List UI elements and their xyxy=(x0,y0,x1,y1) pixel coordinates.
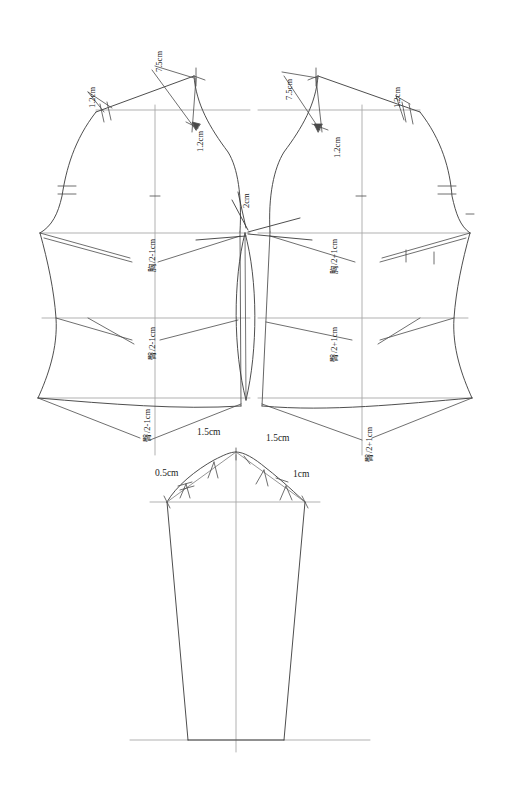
front-shoulder-notch-b xyxy=(409,104,413,124)
back-armhole-curve xyxy=(40,112,96,233)
front-chest-dart-lower xyxy=(380,238,466,262)
label-sleeve-cap-right-lower: 1cm xyxy=(293,470,309,480)
label-back-hem-formula: 臀/2-1cm xyxy=(143,409,152,442)
label-front-hem-formula: 臀/2+1cm xyxy=(365,427,374,462)
front-waist-dart-lower xyxy=(378,318,420,344)
front-neck-measure-leader xyxy=(282,72,318,78)
front-hem-dart-a xyxy=(372,398,472,438)
back-chest-dart-upper xyxy=(40,233,130,258)
sleeve-left-seam xyxy=(167,502,188,740)
back-darts xyxy=(38,233,241,440)
back-chest-dart-lower xyxy=(44,238,132,262)
pattern-drawing xyxy=(0,0,507,807)
front-side-seam xyxy=(454,233,472,398)
sleeve-right-seam xyxy=(284,502,305,740)
label-centre-dart-intake: 2cm xyxy=(242,193,251,208)
construction-guides xyxy=(38,105,472,752)
label-front-neck-width: 7.5cm xyxy=(285,79,294,100)
back-waist-dart-lower xyxy=(88,318,134,344)
back-hem-dart-b xyxy=(150,404,241,440)
centre-dart-right-curve xyxy=(245,233,255,400)
label-back-neck-drop: 1.2cm xyxy=(196,131,205,152)
front-armhole-curve xyxy=(420,112,470,233)
back-hem-line xyxy=(38,398,241,407)
front-hem-line xyxy=(262,398,472,408)
front-waist-dart-upper xyxy=(380,318,454,340)
back-neck-diagonal xyxy=(152,70,196,130)
sleeve-15-left-leader xyxy=(208,462,214,478)
back-bodice-outline xyxy=(38,76,241,407)
back-helper-lines xyxy=(58,66,205,196)
front-centre-line xyxy=(262,232,270,406)
sleeve-15-right-leader-b xyxy=(264,470,268,486)
label-sleeve-cap-left-upper: 1.5cm xyxy=(197,428,220,438)
label-front-chest-formula: 胸/2+1cm xyxy=(330,239,339,274)
centre-dart-ray-c xyxy=(196,236,246,240)
label-back-neck-width: 7.5cm xyxy=(155,51,164,72)
front-helper-lines xyxy=(282,68,456,196)
front-bodice-outline xyxy=(262,76,472,408)
front-shoulder-seam xyxy=(318,76,420,112)
back-hem-dart-a xyxy=(38,398,140,438)
back-side-seam xyxy=(38,233,56,398)
sleeve-1cm-leader-b xyxy=(286,486,292,500)
pattern-sheet: 1.2cm 7.5cm 1.2cm 7.5cm 1.2cm 1.2cm 2cm … xyxy=(0,0,507,807)
sleeve-crown-tick-b xyxy=(244,456,250,464)
label-front-neck-drop: 1.2cm xyxy=(333,137,342,158)
front-waist-dart-centre xyxy=(266,322,352,340)
sleeve-1cm-leader xyxy=(280,486,286,500)
arrow-front-neck-drop xyxy=(314,124,322,132)
label-back-hip-formula: 臀/2-1cm xyxy=(148,327,157,360)
label-front-hip-formula: 臀/2+1cm xyxy=(330,327,339,362)
front-chest-dart-upper xyxy=(382,233,470,258)
centre-dart-axis xyxy=(245,233,246,400)
label-front-shoulder-drop: 1.2cm xyxy=(393,87,402,108)
label-sleeve-cap-left-lower: 0.5cm xyxy=(155,469,178,479)
back-shoulder-notch-a xyxy=(100,104,104,122)
centre-dart-left-curve xyxy=(236,233,246,400)
sleeve-05-leader xyxy=(180,484,186,498)
label-back-chest-formula: 胸/2-1cm xyxy=(148,239,157,272)
sleeve-15-left-leader-b xyxy=(214,462,218,478)
centre-dart xyxy=(196,192,312,400)
centre-dart-ray-a xyxy=(248,218,300,232)
front-chest-dart-centre xyxy=(270,236,355,262)
label-back-shoulder-drop: 1.2cm xyxy=(88,87,97,108)
back-neckline-curve xyxy=(194,76,241,232)
back-waist-dart-centre xyxy=(160,320,238,340)
label-sleeve-cap-right-upper: 1.5cm xyxy=(266,434,289,444)
sleeve-15-right-leader xyxy=(256,470,264,484)
